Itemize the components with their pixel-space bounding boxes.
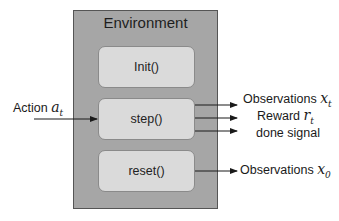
action-label: Action at [13,99,63,118]
step-observation-label: Observations xt [243,90,332,109]
done-signal-label: done signal [256,126,320,140]
reward-label: Reward rt [257,107,314,126]
reset-observation-label: Observations x0 [240,161,331,180]
